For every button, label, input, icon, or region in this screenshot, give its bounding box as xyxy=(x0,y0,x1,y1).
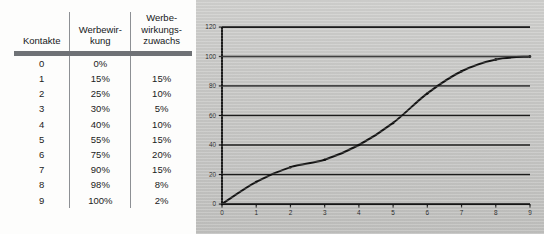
cell-kontakte: 4 xyxy=(14,117,70,132)
cell-werbewirkung: 100% xyxy=(70,193,131,208)
cell-zuwachs: 10% xyxy=(131,117,192,132)
table-row: 555%15% xyxy=(14,132,192,147)
column-header-werbewirkungszuwachs: Werbe- wirkungs- zuwachs xyxy=(131,12,192,51)
cell-werbewirkung: 0% xyxy=(70,56,131,71)
table-row: 790%15% xyxy=(14,162,192,177)
cell-kontakte: 5 xyxy=(14,132,70,147)
header-line: kung xyxy=(72,35,128,47)
cell-kontakte: 8 xyxy=(14,177,70,192)
x-tick-label: 0 xyxy=(220,209,224,216)
table-body: 00%115%15%225%10%330%5%440%10%555%15%675… xyxy=(14,56,192,208)
cell-zuwachs: 2% xyxy=(131,193,192,208)
header-line: Kontakte xyxy=(16,35,67,47)
table-row: 225%10% xyxy=(14,86,192,101)
cell-kontakte: 1 xyxy=(14,71,70,86)
x-tick-label: 5 xyxy=(391,209,395,216)
table-row: 675%20% xyxy=(14,147,192,162)
data-point xyxy=(392,122,395,125)
header-line: wirkungs- xyxy=(133,24,190,36)
column-header-werbewirkung: Werbewir- kung xyxy=(70,12,131,51)
header-line: Werbewir- xyxy=(72,24,128,36)
data-point xyxy=(426,92,429,95)
figure-root: Kontakte Werbewir- kung Werbe- wirkungs-… xyxy=(0,0,544,234)
x-tick-label: 4 xyxy=(357,209,361,216)
x-tick-label: 9 xyxy=(528,209,532,216)
data-table-panel: Kontakte Werbewir- kung Werbe- wirkungs-… xyxy=(0,0,196,234)
werbewirkung-table: Kontakte Werbewir- kung Werbe- wirkungs-… xyxy=(14,12,192,208)
cell-zuwachs: 10% xyxy=(131,86,192,101)
cell-zuwachs: 15% xyxy=(131,132,192,147)
table-row: 115%15% xyxy=(14,71,192,86)
x-axis-tick-labels: 0123456789 xyxy=(220,209,532,216)
cell-kontakte: 9 xyxy=(14,193,70,208)
table-header-row: Kontakte Werbewir- kung Werbe- wirkungs-… xyxy=(14,12,192,51)
line-chart: 020406080100120 0123456789 xyxy=(196,0,544,234)
y-tick-label: 40 xyxy=(209,141,217,148)
cell-kontakte: 2 xyxy=(14,86,70,101)
cell-zuwachs: 15% xyxy=(131,71,192,86)
cell-zuwachs: 20% xyxy=(131,147,192,162)
header-line: zuwachs xyxy=(133,35,190,47)
cell-kontakte: 3 xyxy=(14,101,70,116)
cell-werbewirkung: 90% xyxy=(70,162,131,177)
cell-zuwachs: 8% xyxy=(131,177,192,192)
werbewirkung-curve xyxy=(222,57,530,205)
y-tick-label: 80 xyxy=(209,82,217,89)
x-tick-label: 8 xyxy=(494,209,498,216)
table-row: 330%5% xyxy=(14,101,192,116)
data-point xyxy=(495,58,498,61)
cell-zuwachs: 15% xyxy=(131,162,192,177)
table-head: Kontakte Werbewir- kung Werbe- wirkungs-… xyxy=(14,12,192,56)
cell-zuwachs: 5% xyxy=(131,101,192,116)
cell-werbewirkung: 25% xyxy=(70,86,131,101)
x-tick-label: 6 xyxy=(426,209,430,216)
y-tick-label: 120 xyxy=(205,23,216,30)
chart-panel: 020406080100120 0123456789 xyxy=(196,0,544,234)
cell-werbewirkung: 98% xyxy=(70,177,131,192)
x-tick-label: 2 xyxy=(289,209,293,216)
table-row: 898%8% xyxy=(14,177,192,192)
gridlines-group xyxy=(222,27,530,175)
cell-zuwachs xyxy=(131,56,192,71)
y-tick-label: 60 xyxy=(209,112,217,119)
x-tick-label: 3 xyxy=(323,209,327,216)
table-row: 440%10% xyxy=(14,117,192,132)
data-point-markers xyxy=(221,55,532,205)
y-tick-label: 100 xyxy=(205,53,216,60)
y-axis-tick-labels: 020406080100120 xyxy=(205,23,216,207)
cell-werbewirkung: 40% xyxy=(70,117,131,132)
y-tick-label: 0 xyxy=(212,200,216,207)
data-point xyxy=(529,55,532,58)
cell-werbewirkung: 15% xyxy=(70,71,131,86)
cell-werbewirkung: 30% xyxy=(70,101,131,116)
data-point xyxy=(323,159,326,162)
data-point xyxy=(358,144,361,147)
cell-kontakte: 7 xyxy=(14,162,70,177)
x-tick-label: 1 xyxy=(254,209,258,216)
cell-kontakte: 0 xyxy=(14,56,70,71)
column-header-kontakte: Kontakte xyxy=(14,12,70,51)
data-point xyxy=(289,166,292,169)
table-row: 9100%2% xyxy=(14,193,192,208)
x-tick-label: 7 xyxy=(460,209,464,216)
data-point xyxy=(221,203,224,206)
y-tick-label: 20 xyxy=(209,171,217,178)
cell-werbewirkung: 55% xyxy=(70,132,131,147)
cell-kontakte: 6 xyxy=(14,147,70,162)
cell-werbewirkung: 75% xyxy=(70,147,131,162)
data-point xyxy=(460,70,463,73)
data-point xyxy=(255,181,258,184)
table-row: 00% xyxy=(14,56,192,71)
header-line: Werbe- xyxy=(133,12,190,24)
